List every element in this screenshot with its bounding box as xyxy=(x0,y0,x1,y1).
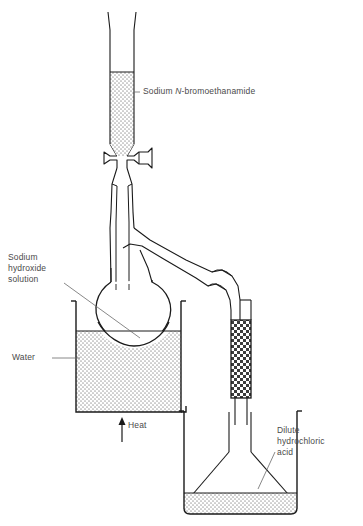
joint-sleeve-left xyxy=(112,184,117,186)
dropping-funnel-taper-fill xyxy=(110,144,134,156)
leader-hydrochloric-acid xyxy=(258,452,275,489)
joint-inner-left xyxy=(116,186,117,222)
dropping-funnel-left-wall xyxy=(108,12,110,144)
label-dilute-hydrochloric-acid: Dilute hydrochloric acid xyxy=(277,425,325,458)
funnel-stem-joint xyxy=(110,168,134,284)
label-sodium-n-bromoethanamide: Sodium N-bromoethanamide xyxy=(143,86,255,97)
reagent-prefix: Sodium xyxy=(143,86,175,96)
label-water: Water xyxy=(12,352,35,363)
reagent-suffix: -bromoethanamide xyxy=(182,86,256,96)
delivery-tube-bulb xyxy=(212,270,232,276)
joint-sleeve-right xyxy=(128,184,132,186)
label-sodium-hydroxide-solution: Sodium hydroxide solution xyxy=(8,252,46,285)
funnel-stem-right xyxy=(133,212,134,228)
drying-tube xyxy=(231,300,251,425)
collection-beaker-fill xyxy=(184,493,297,514)
apparatus-figure: Sodium N-bromoethanamide Sodium hydroxid… xyxy=(0,0,363,526)
dropping-funnel-right-wall xyxy=(134,12,136,144)
drying-tube-fill xyxy=(231,320,251,398)
joint-inner-right xyxy=(128,186,129,222)
conical-flask-cone-right xyxy=(251,452,288,494)
dropping-funnel-fill xyxy=(110,72,134,144)
stopcock-body xyxy=(104,152,117,168)
conical-flask-cone-left xyxy=(193,452,229,494)
heat-arrow xyxy=(119,417,126,442)
flask-neck-right xyxy=(140,250,152,282)
heat-arrow-head xyxy=(119,417,126,425)
label-heat: Heat xyxy=(128,420,147,431)
dropping-funnel xyxy=(108,12,136,156)
